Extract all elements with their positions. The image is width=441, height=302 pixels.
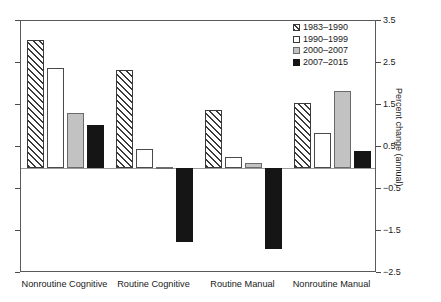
left-axis-tick xyxy=(15,272,20,273)
bar xyxy=(67,113,84,168)
y-axis-tick xyxy=(376,272,381,273)
bar xyxy=(354,151,371,168)
bar xyxy=(87,125,104,168)
legend-label: 2007–2015 xyxy=(303,58,348,67)
left-axis-tick xyxy=(15,20,20,21)
legend-item: 2000–2007 xyxy=(293,45,348,57)
legend-label: 1990–1999 xyxy=(303,35,348,44)
y-axis-tick xyxy=(376,230,381,231)
legend-item: 1983–1990 xyxy=(293,22,348,34)
x-axis-category-label: Nonroutine Cognitive xyxy=(20,279,109,289)
y-axis-tick xyxy=(376,62,381,63)
x-axis-category-label: Nonroutine Manual xyxy=(287,279,376,289)
left-axis-tick xyxy=(15,62,20,63)
bar xyxy=(225,157,242,168)
bar xyxy=(205,110,222,168)
legend: 1983–1990 1990–1999 2000–2007 2007–2015 xyxy=(293,22,348,68)
y-axis-tick xyxy=(376,188,381,189)
left-axis-tick xyxy=(15,146,20,147)
y-axis-tick xyxy=(376,20,381,21)
legend-swatch-icon xyxy=(293,24,300,31)
y-axis-tick xyxy=(376,146,381,147)
bar xyxy=(265,168,282,249)
x-axis-category-label: Routine Cognitive xyxy=(109,279,198,289)
y-axis-title: Percent change (annual) xyxy=(394,88,404,187)
legend-item: 2007–2015 xyxy=(293,57,348,69)
legend-label: 2000–2007 xyxy=(303,46,348,55)
bar xyxy=(27,40,44,168)
y-axis-tick-label: −2.5 xyxy=(383,268,401,277)
bar xyxy=(47,68,64,168)
bar xyxy=(116,70,133,168)
legend-label: 1983–1990 xyxy=(303,23,348,32)
legend-swatch-icon xyxy=(293,36,300,43)
bar xyxy=(245,163,262,168)
left-axis-tick xyxy=(15,230,20,231)
legend-swatch-icon xyxy=(293,59,300,66)
bar xyxy=(294,103,311,168)
left-axis-tick xyxy=(15,188,20,189)
bar-chart: 3.52.51.50.5−0.5−1.5−2.5 Percent change … xyxy=(0,0,441,302)
left-axis-tick xyxy=(15,104,20,105)
bar xyxy=(334,91,351,168)
y-axis-tick-label: 2.5 xyxy=(383,58,396,67)
bar xyxy=(136,149,153,168)
bar xyxy=(176,168,193,242)
x-axis-category-label: Routine Manual xyxy=(198,279,287,289)
y-axis-tick-label: 3.5 xyxy=(383,16,396,25)
y-axis-tick-label: −1.5 xyxy=(383,226,401,235)
legend-item: 1990–1999 xyxy=(293,34,348,46)
bar xyxy=(314,133,331,168)
bar xyxy=(156,167,173,169)
y-axis-tick xyxy=(376,104,381,105)
zero-baseline xyxy=(21,168,375,169)
legend-swatch-icon xyxy=(293,47,300,54)
